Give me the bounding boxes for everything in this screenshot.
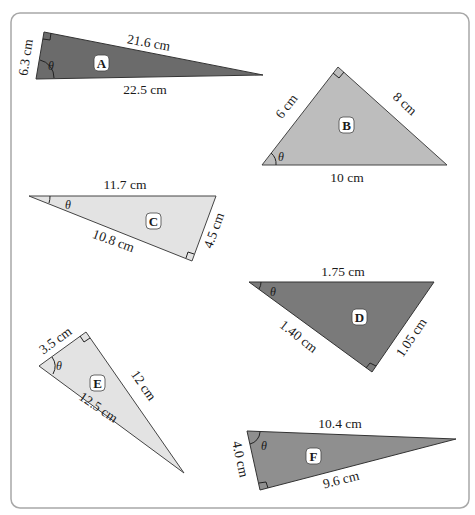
triangle-id-label: D [355, 310, 364, 325]
angle-theta-label: θ [48, 59, 54, 73]
triangle-id-label: B [342, 118, 351, 133]
angle-theta-label: θ [270, 285, 276, 299]
triangles-diagram: θ 6.3 cm 21.6 cm 22.5 cm A θ 6 cm 8 cm 1… [0, 0, 475, 515]
angle-theta-label: θ [56, 359, 62, 373]
angle-theta-label: θ [65, 198, 71, 212]
side-label: 1.75 cm [321, 264, 365, 279]
side-label: 22.5 cm [123, 82, 167, 97]
side-label: 10.4 cm [318, 416, 362, 431]
angle-theta-label: θ [261, 439, 267, 453]
triangle-id-label: E [93, 376, 102, 391]
side-label: 10 cm [330, 170, 364, 185]
triangle-id-label: A [97, 56, 107, 71]
triangle-id-label: F [310, 449, 318, 464]
diagram-frame [11, 13, 469, 508]
angle-theta-label: θ [278, 150, 284, 164]
triangle-id-label: C [149, 214, 158, 229]
side-label: 11.7 cm [104, 177, 147, 192]
